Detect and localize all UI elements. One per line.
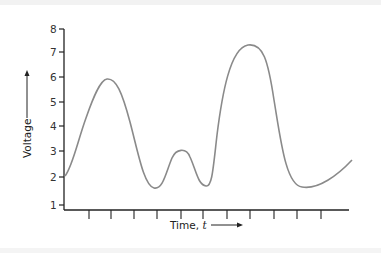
y-tick-label: 1 — [50, 199, 57, 211]
y-axis-label-group: Voltage — [21, 70, 33, 158]
arrow-right-icon — [237, 223, 243, 228]
voltage-curve — [65, 45, 352, 188]
y-tick-label: 2 — [50, 171, 57, 183]
y-tick-label: 6 — [50, 71, 57, 83]
y-ticks: 12345678 — [50, 23, 64, 211]
y-tick-label: 7 — [50, 46, 57, 58]
voltage-time-chart: 12345678 Voltage Time, t — [0, 0, 381, 253]
y-tick-label: 3 — [50, 145, 57, 157]
y-tick-label: 5 — [50, 96, 57, 108]
y-tick-label: 8 — [50, 23, 57, 35]
arrow-up-icon — [25, 70, 30, 76]
y-axis-title: Voltage — [21, 119, 33, 158]
x-ticks — [89, 210, 321, 219]
y-tick-label: 4 — [50, 120, 57, 132]
x-axis-title: Time, t — [169, 219, 207, 231]
